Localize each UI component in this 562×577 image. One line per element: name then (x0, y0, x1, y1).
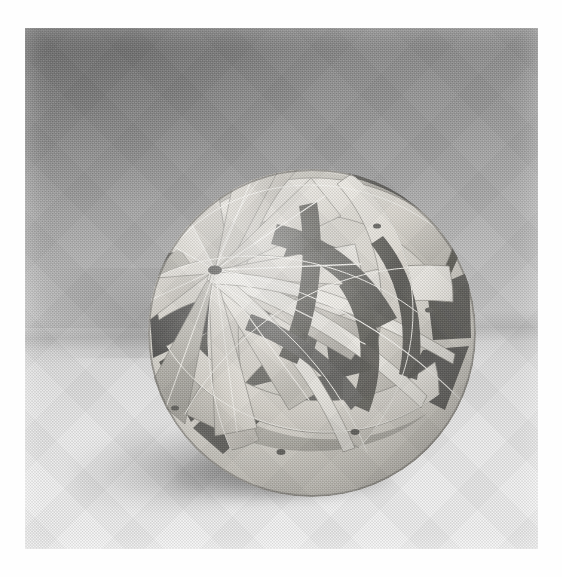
sculpture-vector (25, 28, 538, 549)
photograph-plate (25, 28, 538, 549)
page-root (0, 0, 562, 577)
vertex-left (133, 295, 141, 300)
sphere-body (131, 137, 510, 498)
vertex-top (293, 137, 303, 143)
woven-sphere-sculpture (25, 28, 538, 549)
